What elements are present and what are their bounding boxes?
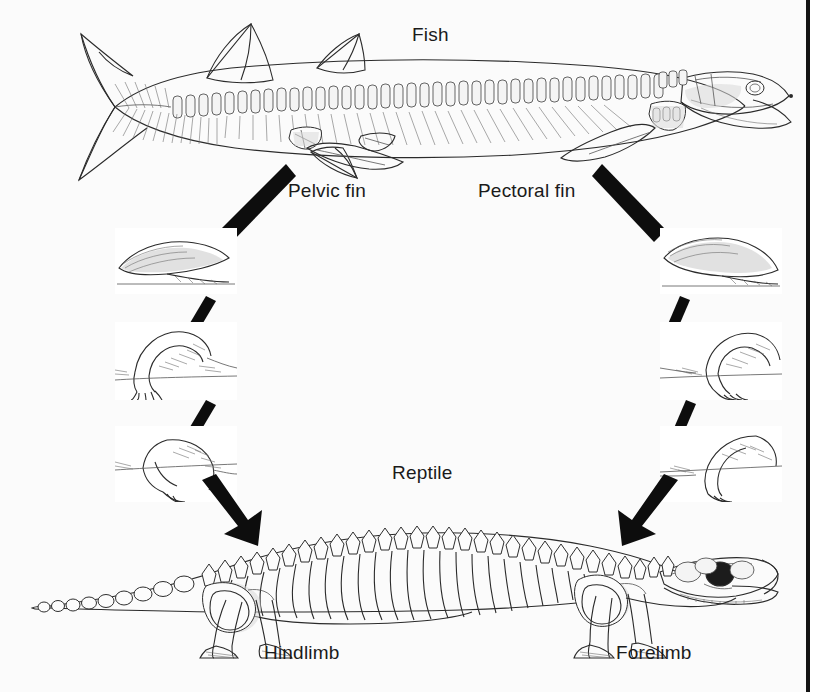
pelvic-fin-label: Pelvic fin: [288, 180, 366, 202]
pectoral-fin-label: Pectoral fin: [478, 180, 575, 202]
hindlimb-label: Hindlimb: [264, 642, 340, 664]
forelimb-label: Forelimb: [616, 642, 692, 664]
right-stage-2-panel: [660, 322, 782, 400]
fish-label: Fish: [412, 24, 449, 46]
left-stage-1-panel: [115, 228, 237, 294]
reptile-label: Reptile: [392, 462, 453, 484]
reptile-skeleton-illustration: [20, 488, 780, 658]
evolution-diagram-figure: Fish Pelvic fin Pectoral fin: [0, 0, 825, 692]
page-border-rule: [806, 0, 810, 692]
page-right-margin: [810, 0, 825, 692]
left-stage-2-panel: [115, 322, 237, 400]
right-stage-1-panel: [660, 228, 782, 294]
